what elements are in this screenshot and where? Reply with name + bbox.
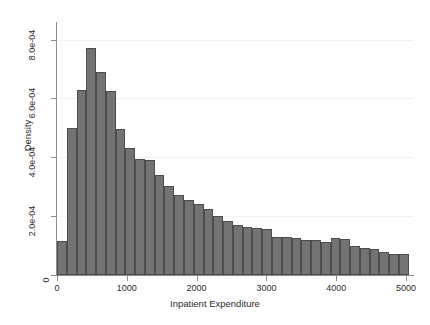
histogram-bar xyxy=(233,225,243,275)
y-axis-tick xyxy=(51,275,56,276)
histogram-bar xyxy=(174,195,184,275)
histogram-bar xyxy=(57,241,67,275)
x-axis-tick-label: 4000 xyxy=(326,283,346,293)
histogram-bar xyxy=(204,209,214,275)
plot-area xyxy=(57,22,413,275)
histogram-bar xyxy=(125,148,135,275)
histogram-bar xyxy=(340,239,350,275)
histogram-bar xyxy=(194,204,204,275)
histogram-bar xyxy=(223,221,233,275)
histogram-bar xyxy=(331,238,341,275)
histogram-bar xyxy=(77,90,87,275)
histogram-bar xyxy=(389,254,399,275)
x-axis-tick xyxy=(406,276,407,281)
histogram-bar xyxy=(370,249,380,275)
x-axis-title: Inpatient Expenditure xyxy=(0,298,430,309)
y-axis-title: Density xyxy=(22,96,33,176)
histogram-bar xyxy=(321,242,331,275)
y-axis-tick xyxy=(51,216,56,217)
histogram-bar xyxy=(311,240,321,275)
histogram-bar xyxy=(301,240,311,275)
x-axis-tick xyxy=(127,276,128,281)
histogram-bar xyxy=(164,186,174,275)
histogram-bar xyxy=(213,216,223,275)
x-axis-tick xyxy=(266,276,267,281)
x-axis-tick-label: 5000 xyxy=(396,283,416,293)
histogram-bar xyxy=(135,159,145,275)
x-axis-tick xyxy=(336,276,337,281)
histogram-bars xyxy=(57,22,413,275)
x-axis-tick xyxy=(197,276,198,281)
y-axis-line xyxy=(56,22,57,276)
x-axis-tick xyxy=(57,276,58,281)
x-axis-tick-label: 1000 xyxy=(117,283,137,293)
histogram-bar xyxy=(106,91,116,275)
histogram-bar xyxy=(155,175,165,275)
histogram-bar xyxy=(96,72,106,275)
histogram-bar xyxy=(350,246,360,275)
histogram-bar xyxy=(243,227,253,275)
x-axis-tick-label: 0 xyxy=(54,283,59,293)
x-axis-tick-label: 2000 xyxy=(187,283,207,293)
histogram-bar xyxy=(116,129,126,276)
histogram-bar xyxy=(379,252,389,275)
histogram-figure: 02.0e-044.0e-046.0e-048.0e-04 0100020003… xyxy=(0,0,430,325)
histogram-bar xyxy=(67,128,77,275)
histogram-bar xyxy=(282,237,292,275)
histogram-bar xyxy=(252,228,262,275)
y-axis-tick-label: 0 xyxy=(0,269,48,281)
histogram-bar xyxy=(145,160,155,275)
histogram-bar xyxy=(184,200,194,275)
histogram-bar xyxy=(360,248,370,275)
histogram-bar xyxy=(292,238,302,275)
y-axis-tick xyxy=(51,98,56,99)
y-axis-tick xyxy=(51,157,56,158)
y-axis-tick-label: 2.0e-04 xyxy=(0,210,48,222)
x-axis-line xyxy=(56,275,414,276)
histogram-bar xyxy=(272,237,282,275)
histogram-bar xyxy=(399,254,409,275)
histogram-bar xyxy=(262,229,272,275)
histogram-bar xyxy=(86,48,96,275)
x-axis-tick-label: 3000 xyxy=(256,283,276,293)
y-axis-tick-label: 8.0e-04 xyxy=(0,34,48,46)
y-axis-tick xyxy=(51,40,56,41)
